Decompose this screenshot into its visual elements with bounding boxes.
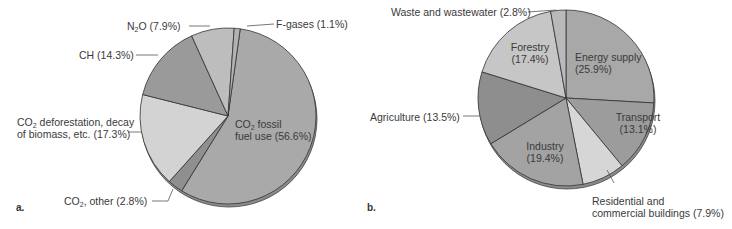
label-transport: Transport(13.1%) <box>598 111 678 135</box>
label-defor-line2: of biomass, etc. (17.3%) <box>17 128 130 140</box>
label-industry-line1: Industry <box>526 140 563 152</box>
label-fgases: F-gases (1.1%) <box>276 18 348 30</box>
panel-label-a: a. <box>16 202 24 213</box>
label-energy-line1: Energy supply <box>575 51 642 63</box>
label-res-line1: Residential and <box>592 195 664 207</box>
label-n2o-value: (7.9%) <box>150 20 181 32</box>
label-residential: Residential andcommercial buildings (7.9… <box>592 195 724 219</box>
label-energy-supply: Energy supply(25.9%) <box>575 51 642 75</box>
label-co2-other: CO2, other (2.8%) <box>64 195 147 207</box>
label-forestry: Forestry(17.4%) <box>500 41 560 65</box>
label-other-value: , other (2.8%) <box>84 195 148 207</box>
label-defor-line1: deforestation, decay <box>40 116 135 128</box>
label-industry-line2: (19.4%) <box>527 152 564 164</box>
panel-label-b: b. <box>367 202 376 213</box>
label-transport-line2: (13.1%) <box>620 123 657 135</box>
label-energy-line2: (25.9%) <box>575 63 612 75</box>
label-transport-line1: Transport <box>616 111 661 123</box>
label-co2-fossil: CO2 fossilfuel use (56.6%) <box>235 118 311 142</box>
label-industry: Industry(19.4%) <box>510 140 580 164</box>
label-n2o: N2O (7.9%) <box>127 20 181 32</box>
label-waste: Waste and wastewater (2.8%) <box>391 6 531 18</box>
label-fossil-line1: fossil <box>258 118 282 130</box>
label-ch: CH (14.3%) <box>79 49 134 61</box>
label-forestry-line1: Forestry <box>511 41 550 53</box>
label-co2-deforestation: CO2 deforestation, decayof biomass, etc.… <box>17 116 134 140</box>
label-agriculture: Agriculture (13.5%) <box>370 111 460 123</box>
label-res-line2: commercial buildings (7.9%) <box>592 207 724 219</box>
label-forestry-line2: (17.4%) <box>512 53 549 65</box>
label-fossil-line2: fuel use (56.6%) <box>235 130 311 142</box>
